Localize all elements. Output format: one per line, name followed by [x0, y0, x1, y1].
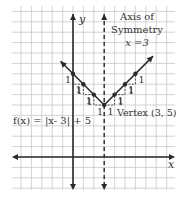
y-axis-label: y	[78, 13, 86, 26]
plotted-point	[71, 72, 75, 76]
step-rise-label: 1	[86, 95, 92, 106]
step-run-label: 1	[107, 106, 113, 117]
y-axis-arrow-down	[70, 184, 76, 190]
x-axis-label: x	[168, 158, 175, 171]
plotted-point	[112, 92, 116, 96]
step-rise-label: 1	[65, 74, 71, 85]
axis-of-symmetry-arrow-up	[101, 14, 107, 20]
function-label: f(x) = |x- 3| + 5	[13, 115, 91, 127]
step-run-label: 1	[118, 96, 124, 107]
axis-of-symmetry-title-line1: Axis of	[119, 11, 155, 22]
plotted-point	[133, 72, 137, 76]
axis-of-symmetry-equation: x =3	[125, 37, 149, 48]
step-run-label: 1	[128, 85, 134, 96]
plotted-point	[102, 103, 106, 107]
y-axis-arrow-up	[70, 14, 76, 20]
plotted-point	[81, 82, 85, 86]
vertex-label: Vertex (3, 5)	[116, 107, 177, 118]
axis-of-symmetry-arrow-down	[101, 184, 107, 190]
absolute-value-graph: 111111111111 y x Axis of Symmetry x =3 V…	[0, 0, 181, 202]
step-rise-label: 1	[138, 74, 144, 85]
step-run-label: 1	[97, 106, 103, 117]
plotted-point	[123, 82, 127, 86]
step-rise-label: 1	[75, 84, 81, 95]
x-axis-arrow-left	[12, 154, 18, 160]
axis-of-symmetry-title-line2: Symmetry	[111, 24, 163, 35]
plotted-point	[92, 92, 96, 96]
